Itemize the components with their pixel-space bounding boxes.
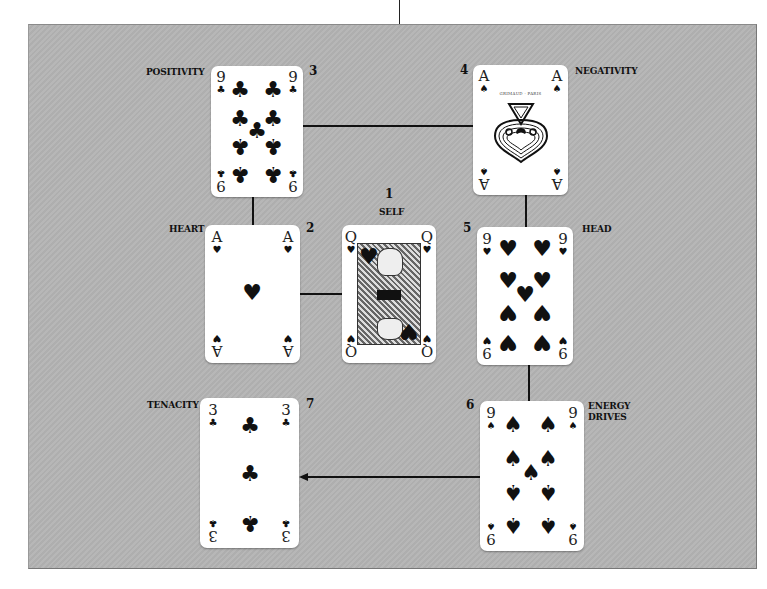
card-corner-bottom-right: Q♥ xyxy=(420,333,434,358)
heart-icon: ♥ xyxy=(556,335,570,346)
position-label-tenacity: TENACITY xyxy=(147,400,199,411)
spade-pip-icon: ♠ xyxy=(501,514,525,536)
card-three-of-clubs[interactable]: 3♣ 3♣ 3♣ 3♣ ♣ ♣ ♣ xyxy=(200,398,299,548)
position-number-5: 5 xyxy=(463,221,471,235)
spade-pip-icon: ♠ xyxy=(536,514,560,536)
connector-3-4 xyxy=(303,125,475,127)
club-pip-icon: ♣ xyxy=(238,415,262,437)
club-pip-icon: ♣ xyxy=(228,79,252,101)
card-corner-top-left: A♥ xyxy=(210,230,224,255)
heart-icon: ♥ xyxy=(480,335,494,346)
club-pip-icon: ♣ xyxy=(261,163,285,185)
card-corner-bottom-right: 9♠ xyxy=(566,521,580,546)
card-corner-top-right: 9♥ xyxy=(556,232,570,257)
card-ace-of-spades[interactable]: A♠ A♠ A♠ A♠ GRIMAUD · PARIS xyxy=(473,65,568,195)
card-corner-bottom-left: 9♠ xyxy=(484,521,498,546)
spade-icon: ♠ xyxy=(484,420,498,431)
label-line-energy: ENERGY xyxy=(588,401,630,411)
club-icon: ♣ xyxy=(286,168,300,179)
heart-pip-icon: ♥ xyxy=(496,331,520,353)
spade-icon: ♠ xyxy=(484,521,498,532)
card-corner-bottom-right: 9♥ xyxy=(556,335,570,360)
spade-pip-icon: ♠ xyxy=(536,414,560,436)
spade-icon: ♠ xyxy=(566,521,580,532)
position-label-self: SELF xyxy=(379,207,404,218)
club-icon: ♣ xyxy=(214,84,228,95)
connector-3-2 xyxy=(252,197,254,225)
club-icon: ♣ xyxy=(286,84,300,95)
heart-icon: ♥ xyxy=(359,246,379,268)
club-pip-icon: ♣ xyxy=(238,463,262,485)
position-label-heart: HEART xyxy=(169,224,204,235)
card-maker-text: GRIMAUD · PARIS xyxy=(473,91,568,96)
card-ace-of-hearts[interactable]: A♥ A♥ A♥ A♥ ♥ xyxy=(205,225,300,363)
heart-pip-icon: ♥ xyxy=(240,282,264,304)
heart-icon: ♥ xyxy=(556,246,570,257)
card-corner-bottom-left: 9♥ xyxy=(480,335,494,360)
card-corner-bottom-right: A♥ xyxy=(281,333,295,358)
heart-icon: ♥ xyxy=(399,320,419,342)
card-corner-top-left: 3♣ xyxy=(206,403,220,428)
heart-pip-icon: ♥ xyxy=(530,331,554,353)
card-corner-bottom-left: Q♥ xyxy=(344,333,358,358)
connector-4-5 xyxy=(525,195,527,227)
position-number-7: 7 xyxy=(306,397,314,411)
card-corner-top-right: 9♣ xyxy=(286,70,300,95)
position-label-head: HEAD xyxy=(582,224,611,235)
connector-6-7-arrow-shaft xyxy=(306,476,481,478)
position-number-3: 3 xyxy=(309,64,317,78)
position-number-2: 2 xyxy=(306,221,314,235)
queen-band xyxy=(377,290,402,300)
spade-icon: ♠ xyxy=(566,420,580,431)
top-connector-line xyxy=(399,0,400,24)
position-number-6: 6 xyxy=(466,398,474,412)
card-nine-of-spades[interactable]: 9♠ 9♠ 9♠ 9♠ ♠ ♠ ♠ ♠ ♠ ♠ ♠ ♠ ♠ xyxy=(480,401,584,551)
club-icon: ♣ xyxy=(279,417,293,428)
connector-5-6 xyxy=(528,365,530,401)
position-label-positivity: POSITIVITY xyxy=(146,67,205,78)
card-corner-top-right: Q♥ xyxy=(420,230,434,255)
heart-icon: ♥ xyxy=(480,246,494,257)
club-icon: ♣ xyxy=(206,518,220,529)
club-icon: ♣ xyxy=(214,168,228,179)
card-corner-bottom-right: 9♣ xyxy=(286,168,300,193)
card-corner-top-left: Q♥ xyxy=(344,230,358,255)
position-number-1: 1 xyxy=(385,187,393,201)
spade-pip-icon: ♠ xyxy=(501,414,525,436)
card-corner-top-left: 9♠ xyxy=(484,406,498,431)
position-label-energy-drives: ENERGY DRIVES xyxy=(588,401,630,423)
card-corner-bottom-left: 3♣ xyxy=(206,518,220,543)
spade-pip-icon: ♠ xyxy=(501,481,525,503)
heart-pip-icon: ♥ xyxy=(496,238,520,260)
club-pip-icon: ♣ xyxy=(238,512,262,534)
queen-face xyxy=(377,248,404,276)
card-corner-bottom-right: 3♣ xyxy=(279,518,293,543)
card-corner-top-left: 9♣ xyxy=(214,70,228,95)
ornate-spade-icon xyxy=(493,102,549,164)
position-label-negativity: NEGATIVITY xyxy=(575,66,638,77)
connector-2-1 xyxy=(300,293,342,295)
club-pip-icon: ♣ xyxy=(228,163,252,185)
club-pip-icon: ♣ xyxy=(228,135,252,157)
card-corner-top-right: A♥ xyxy=(281,230,295,255)
card-nine-of-hearts[interactable]: 9♥ 9♥ 9♥ 9♥ ♥ ♥ ♥ ♥ ♥ ♥ ♥ ♥ ♥ xyxy=(477,227,573,365)
card-corner-bottom-left: A♠ xyxy=(477,166,491,191)
card-queen-of-hearts[interactable]: Q♥ Q♥ Q♥ Q♥ ♥ ♥ xyxy=(342,225,436,363)
queen-court-artwork: ♥ ♥ xyxy=(357,243,421,345)
heart-pip-icon: ♥ xyxy=(530,301,554,323)
card-corner-top-right: 9♠ xyxy=(566,406,580,431)
heart-pip-icon: ♥ xyxy=(530,238,554,260)
card-nine-of-clubs[interactable]: 9♣ 9♣ 9♣ 9♣ ♣ ♣ ♣ ♣ ♣ ♣ ♣ ♣ ♣ xyxy=(211,66,303,197)
position-number-4: 4 xyxy=(460,63,468,77)
card-corner-top-right: 3♣ xyxy=(279,403,293,428)
card-corner-top-left: 9♥ xyxy=(480,232,494,257)
card-corner-bottom-left: A♥ xyxy=(210,333,224,358)
club-pip-icon: ♣ xyxy=(261,135,285,157)
arrow-left-icon xyxy=(299,473,308,481)
heart-pip-icon: ♥ xyxy=(496,301,520,323)
club-pip-icon: ♣ xyxy=(261,79,285,101)
spade-pip-icon: ♠ xyxy=(536,481,560,503)
club-icon: ♣ xyxy=(206,417,220,428)
card-corner-bottom-right: A♠ xyxy=(550,166,564,191)
card-corner-bottom-left: 9♣ xyxy=(214,168,228,193)
